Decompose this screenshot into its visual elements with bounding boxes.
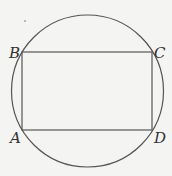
label-b: B (8, 44, 20, 62)
rectangle-abcd (22, 52, 152, 130)
stray-dot (24, 20, 26, 22)
label-a: A (8, 129, 21, 147)
label-c: C (154, 44, 166, 62)
diagram-canvas: B C A D (0, 0, 172, 176)
label-d: D (153, 129, 166, 147)
circumscribed-circle (12, 15, 164, 167)
